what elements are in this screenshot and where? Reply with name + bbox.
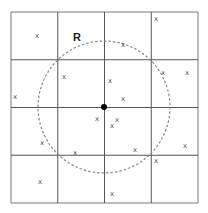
data-point-marker: x <box>110 190 114 198</box>
data-point-marker: x <box>183 142 187 150</box>
data-point-marker: x <box>121 95 125 103</box>
data-point-marker: x <box>185 69 189 77</box>
data-point-marker: x <box>35 32 39 40</box>
data-point-marker: x <box>121 41 125 49</box>
data-point-marker: x <box>108 77 112 85</box>
data-point-marker: x <box>73 149 77 157</box>
query-point-center <box>101 104 107 110</box>
radius-label: R <box>73 31 81 43</box>
data-point-marker: x <box>115 116 119 124</box>
data-point-marker: x <box>38 178 42 186</box>
data-point-marker: x <box>95 115 99 123</box>
data-point-marker: x <box>133 146 137 154</box>
data-point-marker: x <box>40 139 44 147</box>
spatial-grid-diagram: xxxxxxxxxxxxxxxxxxx R <box>0 0 208 213</box>
data-point-marker: x <box>161 69 165 77</box>
data-point-marker: x <box>13 93 17 101</box>
data-point-marker: x <box>154 157 158 165</box>
data-point-marker: x <box>62 73 66 81</box>
data-point-marker: x <box>154 15 158 23</box>
data-point-marker: x <box>110 122 114 130</box>
data-points: xxxxxxxxxxxxxxxxxxx <box>13 15 189 198</box>
